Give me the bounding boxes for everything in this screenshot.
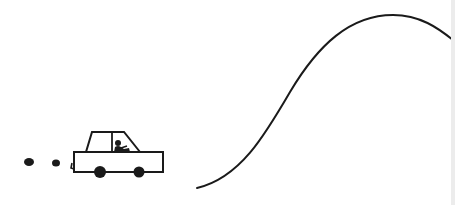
hill-curve	[197, 15, 453, 188]
car-wheel-front	[94, 166, 106, 178]
car-wheel-rear	[134, 167, 145, 178]
car-icon	[74, 132, 163, 178]
right-edge-band	[451, 0, 455, 205]
car-body	[74, 152, 163, 172]
car-cabin	[86, 132, 140, 152]
driver-icon	[114, 140, 130, 152]
drawing-svg	[0, 0, 455, 205]
exhaust-puff-icon	[24, 158, 34, 166]
exhaust-puff-icon	[52, 160, 60, 167]
illustration: Line drawing of a car with exhaust puffs…	[0, 0, 455, 205]
exhaust-puffs	[24, 158, 74, 169]
